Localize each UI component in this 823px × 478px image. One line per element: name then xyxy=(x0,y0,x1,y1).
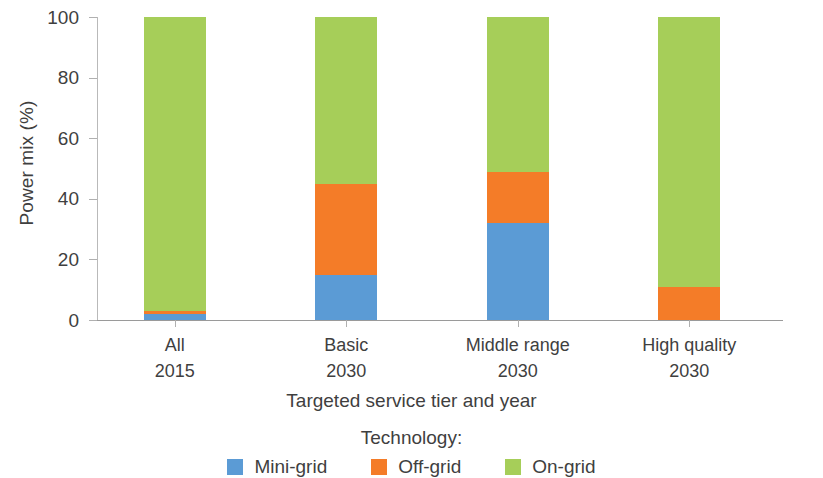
bar-segment[interactable] xyxy=(487,17,549,172)
x-axis-category-label: All2015 xyxy=(85,332,265,384)
y-axis-tick: 20 xyxy=(89,259,97,260)
legend-item-label: On-grid xyxy=(532,456,595,478)
legend-item-label: Off-grid xyxy=(398,456,461,478)
x-axis-category-label-line: High quality xyxy=(599,332,779,358)
bar-segment[interactable] xyxy=(144,17,206,311)
bar-stack[interactable] xyxy=(144,17,206,320)
bar-segment[interactable] xyxy=(315,275,377,320)
bar-stack[interactable] xyxy=(315,17,377,320)
y-axis-tick-label: 0 xyxy=(68,310,79,332)
legend-title: Technology: xyxy=(0,427,823,449)
legend-swatch-icon xyxy=(371,459,387,475)
bar-stack[interactable] xyxy=(487,17,549,320)
y-axis-tick-mark xyxy=(89,17,97,18)
bar-segment[interactable] xyxy=(315,184,377,275)
x-axis-tick-mark xyxy=(175,320,176,327)
y-axis-tick-mark xyxy=(89,78,97,79)
bar-segment[interactable] xyxy=(487,223,549,320)
x-axis-category-label-line: 2015 xyxy=(85,358,265,384)
y-axis-tick: 60 xyxy=(89,138,97,139)
x-axis-category-label-line: 2030 xyxy=(428,358,608,384)
legend-swatch-icon xyxy=(227,459,243,475)
x-axis-tick-mark xyxy=(518,320,519,327)
x-axis-title: Targeted service tier and year xyxy=(0,390,823,412)
x-axis-category-label: Middle range2030 xyxy=(428,332,608,384)
y-axis-tick-label: 40 xyxy=(58,188,79,210)
x-axis-category-label: High quality2030 xyxy=(599,332,779,384)
bar-segment[interactable] xyxy=(315,17,377,184)
y-axis-tick-label: 20 xyxy=(58,249,79,271)
legend-item[interactable]: Mini-grid xyxy=(227,456,327,478)
bar-segment[interactable] xyxy=(144,314,206,320)
x-axis-category-label-line: All xyxy=(85,332,265,358)
y-axis-tick: 40 xyxy=(89,199,97,200)
y-axis-tick: 80 xyxy=(89,78,97,79)
bar-segment[interactable] xyxy=(658,17,720,287)
y-axis-tick-mark xyxy=(89,138,97,139)
plot-area: 020406080100 xyxy=(97,17,783,320)
legend-swatch-icon xyxy=(505,459,521,475)
x-axis-category-label-line: 2030 xyxy=(599,358,779,384)
y-axis-line xyxy=(97,17,98,320)
bar-stack[interactable] xyxy=(658,17,720,320)
x-axis-tick-mark xyxy=(346,320,347,327)
y-axis-tick-label: 100 xyxy=(47,7,79,29)
bar-segment[interactable] xyxy=(658,287,720,320)
x-axis-category-label-line: Basic xyxy=(256,332,436,358)
bar-segment[interactable] xyxy=(487,172,549,224)
legend-items: Mini-gridOff-gridOn-grid xyxy=(0,456,823,478)
y-axis-tick-label: 60 xyxy=(58,128,79,150)
y-axis-tick-mark xyxy=(89,259,97,260)
legend-item[interactable]: On-grid xyxy=(505,456,595,478)
y-axis-title: Power mix (%) xyxy=(16,73,38,253)
legend-item[interactable]: Off-grid xyxy=(371,456,461,478)
legend-item-label: Mini-grid xyxy=(254,456,327,478)
y-axis-tick: 100 xyxy=(89,17,97,18)
x-axis-line xyxy=(89,320,783,321)
legend: Technology: Mini-gridOff-gridOn-grid xyxy=(0,427,823,478)
y-axis-tick: 0 xyxy=(89,320,97,321)
y-axis-tick-mark xyxy=(89,199,97,200)
x-axis-category-label-line: 2030 xyxy=(256,358,436,384)
y-axis-tick-label: 80 xyxy=(58,67,79,89)
y-axis-tick-mark xyxy=(89,320,97,321)
x-axis-category-label-line: Middle range xyxy=(428,332,608,358)
x-axis-category-label: Basic2030 xyxy=(256,332,436,384)
x-axis-tick-mark xyxy=(689,320,690,327)
